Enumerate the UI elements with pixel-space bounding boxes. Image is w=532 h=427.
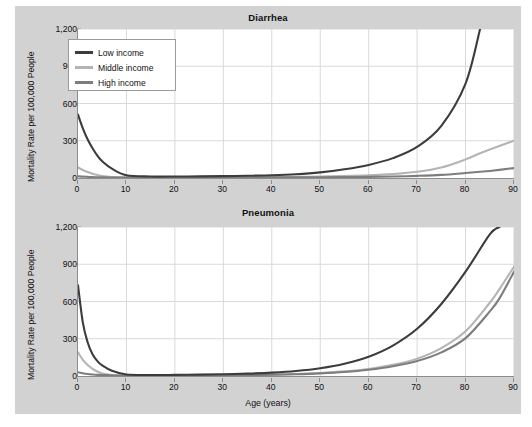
x-tick-label: 40: [266, 382, 276, 392]
legend: Low income Middle income High income: [68, 39, 176, 91]
y-tick-label: 1,200: [31, 222, 77, 232]
x-tick-mark: [77, 378, 78, 382]
x-tick-mark: [271, 378, 272, 382]
x-tick-label: 0: [75, 184, 80, 194]
legend-item-middle-income: Middle income: [75, 60, 169, 75]
x-tick-mark: [513, 180, 514, 184]
x-tick-label: 20: [169, 184, 179, 194]
plot-area-pneumonia: [77, 227, 514, 377]
x-tick-mark: [465, 180, 466, 184]
chart-panel-diarrhea: Diarrhea Mortality Rate per 100,000 Peop…: [15, 6, 521, 202]
x-tick-mark: [368, 180, 369, 184]
x-tick-mark: [465, 378, 466, 382]
x-tick-label: 10: [121, 184, 131, 194]
x-tick-mark: [77, 180, 78, 184]
x-tick-mark: [513, 378, 514, 382]
x-tick-label: 80: [460, 184, 470, 194]
chart-panel-pneumonia: Pneumonia Mortality Rate per 100,000 Peo…: [15, 202, 521, 414]
x-axis-ticks-diarrhea: 0102030405060708090: [77, 180, 513, 198]
x-tick-label: 70: [411, 184, 421, 194]
x-tick-label: 40: [266, 184, 276, 194]
y-tick-label: 600: [31, 99, 77, 109]
x-tick-label: 0: [75, 382, 80, 392]
x-tick-mark: [222, 180, 223, 184]
x-tick-label: 30: [218, 382, 228, 392]
x-axis-label: Age (years): [15, 398, 521, 408]
figure-container: Diarrhea Mortality Rate per 100,000 Peop…: [15, 6, 521, 414]
x-tick-mark: [125, 378, 126, 382]
x-axis-ticks-pneumonia: 0102030405060708090: [77, 378, 513, 396]
legend-swatch-low-income: [75, 51, 93, 54]
x-tick-mark: [416, 180, 417, 184]
x-tick-mark: [125, 180, 126, 184]
x-tick-label: 90: [508, 184, 518, 194]
x-tick-mark: [368, 378, 369, 382]
x-tick-label: 50: [314, 184, 324, 194]
series-svg-pneumonia: [78, 227, 514, 376]
y-tick-label: 1,200: [31, 24, 77, 34]
y-tick-label: 300: [31, 334, 77, 344]
x-tick-mark: [319, 180, 320, 184]
legend-swatch-high-income: [75, 81, 93, 84]
series-line-middle-income: [78, 141, 514, 178]
x-tick-label: 50: [314, 382, 324, 392]
series-line-middle-income: [78, 267, 514, 376]
x-tick-mark: [174, 180, 175, 184]
x-tick-mark: [271, 180, 272, 184]
panel-title-pneumonia: Pneumonia: [15, 207, 521, 218]
y-tick-label: 600: [31, 297, 77, 307]
x-tick-mark: [319, 378, 320, 382]
x-tick-label: 60: [363, 184, 373, 194]
legend-label-middle-income: Middle income: [98, 63, 153, 73]
panel-title-diarrhea: Diarrhea: [15, 12, 521, 23]
x-tick-label: 60: [363, 382, 373, 392]
series-line-high-income: [78, 272, 514, 376]
x-tick-mark: [222, 378, 223, 382]
legend-label-high-income: High income: [98, 78, 146, 88]
legend-item-high-income: High income: [75, 75, 169, 90]
legend-label-low-income: Low income: [98, 48, 144, 58]
legend-item-low-income: Low income: [75, 45, 169, 60]
x-tick-label: 10: [121, 382, 131, 392]
x-tick-label: 20: [169, 382, 179, 392]
x-tick-label: 80: [460, 382, 470, 392]
x-tick-label: 70: [411, 382, 421, 392]
x-tick-label: 30: [218, 184, 228, 194]
legend-swatch-middle-income: [75, 66, 93, 69]
y-tick-label: 0: [31, 371, 77, 381]
y-tick-label: 900: [31, 259, 77, 269]
x-tick-label: 90: [508, 382, 518, 392]
y-tick-label: 0: [31, 173, 77, 183]
x-tick-mark: [174, 378, 175, 382]
y-tick-label: 300: [31, 136, 77, 146]
x-tick-mark: [416, 378, 417, 382]
y-axis-ticks-pneumonia: 03006009001,200: [19, 227, 77, 376]
